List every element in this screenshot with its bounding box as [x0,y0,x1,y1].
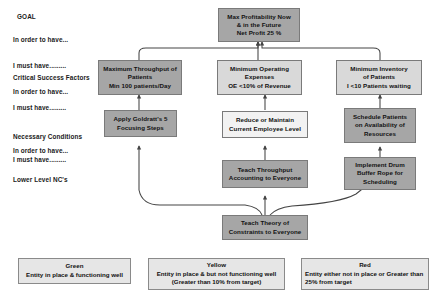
node-line: Accounting to Everyone [229,174,301,182]
legend-desc: Entity in place & but not functioning we… [152,270,281,287]
node-line: OE <10% of Revenue [228,82,291,90]
label-i-must-have-1: I must have......... [13,62,66,69]
node-line: Apply Goldratt's 5 [114,115,168,123]
node-line: & in the Future [227,21,291,29]
reduce-or-maintain-employee-level-node[interactable]: Reduce or Maintain Current Employee Leve… [222,111,308,138]
node-line: Patients [103,73,177,81]
implement-drum-buffer-rope-node[interactable]: Implement Drum Buffer Rope for Schedulin… [344,157,416,190]
node-line: Net Profit 25 % [227,29,291,37]
label-in-order-to-have-1: In order to have... [13,36,68,43]
legend-desc: Entity either not in place or Greater th… [305,270,425,287]
node-line: Minimum Operating [228,65,291,73]
label-in-order-to-have-3: In order to have... [13,147,68,154]
node-line: Focusing Steps [114,124,168,132]
node-line: Minimum Inventory [347,65,411,73]
node-line: Scheduling [355,178,405,186]
label-lower-level-ncs: Lower Level NC's [13,176,68,183]
legend-desc: Entity in place & functioning well [22,271,127,280]
node-line: Constraints to Everyone [229,228,302,236]
legend-title: Yellow [152,261,281,270]
node-line: Reduce or Maintain [229,116,301,124]
node-line: Implement Drum [355,161,405,169]
label-i-must-have-3: I must have......... [13,156,66,163]
arrow-inventory-to-goal [262,42,380,60]
apply-goldratt-five-focusing-steps-node[interactable]: Apply Goldratt's 5 Focusing Steps [104,110,177,137]
legend-yellow: Yellow Entity in place & but not functio… [148,258,285,290]
node-line: Max Profitability Now [227,13,291,21]
node-line: Current Employee Level [229,125,301,133]
schedule-patients-on-availability-node[interactable]: Schedule Patients on Availability of Res… [344,108,416,143]
node-line: Teach Theory of [229,219,302,227]
minimum-inventory-node[interactable]: Minimum Inventory of Patients I <10 Pati… [336,60,422,95]
minimum-operating-expenses-node[interactable]: Minimum Operating Expenses OE <10% of Re… [217,60,302,95]
node-line: Schedule Patients [353,113,407,121]
label-in-order-to-have-2: In order to have... [13,88,68,95]
label-necessary-conditions: Necessary Conditions [13,133,82,140]
label-i-must-have-2: I must have......... [13,104,66,111]
node-line: on Availability of [353,121,407,129]
node-line: of Patients [347,73,411,81]
legend-green: Green Entity in place & functioning well [18,258,131,284]
diagram-canvas: GOAL In order to have... I must have....… [0,0,441,302]
legend-red: Red Entity either not in place or Greate… [301,258,429,290]
legend-title: Red [305,261,425,270]
node-line: Min 100 patients/Day [103,82,177,90]
node-line: I <10 Patients waiting [347,82,411,90]
legend-title: Green [22,262,127,271]
node-line: Teach Throughput [229,166,301,174]
teach-theory-of-constraints-node[interactable]: Teach Theory of Constraints to Everyone [222,215,308,240]
label-goal: GOAL [17,13,36,20]
node-line: Maximum Throughput of [103,65,177,73]
label-critical-success-factors: Critical Success Factors [13,74,90,81]
maximum-throughput-node[interactable]: Maximum Throughput of Patients Min 100 p… [98,60,182,95]
node-line: Resources [353,130,407,138]
max-profitability-node[interactable]: Max Profitability Now & in the Future Ne… [218,8,300,42]
node-line: Expenses [228,73,291,81]
node-line: Buffer Rope for [355,169,405,177]
teach-throughput-accounting-node[interactable]: Teach Throughput Accounting to Everyone [222,160,308,188]
arrow-throughput-to-goal [139,42,258,60]
